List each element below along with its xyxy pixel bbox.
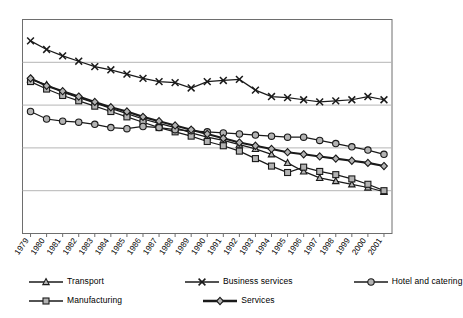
x-axis-label: 1994 <box>254 236 272 256</box>
x-axis-label: 1987 <box>141 236 159 256</box>
legend-row: TransportBusiness servicesHotel and cate… <box>0 272 409 291</box>
x-axis-label: 1999 <box>334 236 352 256</box>
legend-item-services[interactable]: Services <box>202 295 274 307</box>
x-axis-label: 2001 <box>366 236 384 256</box>
data-point <box>92 121 98 127</box>
legend-row: ManufacturingServices <box>0 291 409 310</box>
square-marker-icon <box>28 295 64 307</box>
legend-label: Hotel and catering <box>389 277 463 286</box>
data-point <box>368 278 374 284</box>
data-point <box>365 181 371 187</box>
data-point <box>124 125 130 131</box>
x-axis-label: 1979 <box>13 236 31 256</box>
data-point <box>285 170 291 176</box>
data-point <box>140 123 146 129</box>
data-point <box>301 164 307 170</box>
x-axis-label: 1982 <box>61 236 79 256</box>
data-point <box>269 163 275 169</box>
data-point <box>284 134 290 140</box>
data-point <box>252 132 258 138</box>
x-axis-label: 1996 <box>286 236 304 256</box>
cross-marker-icon <box>184 276 220 288</box>
legend-item-transport[interactable]: Transport <box>28 276 104 288</box>
data-point <box>333 172 339 178</box>
data-point <box>236 131 242 137</box>
data-point <box>108 124 114 130</box>
triangle-marker-icon <box>28 276 64 288</box>
data-point <box>204 138 210 144</box>
data-point <box>236 148 242 154</box>
legend-item-manufacturing[interactable]: Manufacturing <box>28 295 122 307</box>
plot-frame <box>23 20 393 234</box>
data-point <box>27 108 33 114</box>
legend-label: Business services <box>220 277 293 286</box>
circle-marker-icon <box>353 276 389 288</box>
data-point <box>333 140 339 146</box>
data-point <box>268 133 274 139</box>
x-axis-label: 1992 <box>222 236 240 256</box>
x-axis-label: 1980 <box>29 236 47 256</box>
x-axis-label: 1995 <box>270 236 288 256</box>
legend-item-business-services[interactable]: Business services <box>184 276 293 288</box>
data-point <box>59 118 65 124</box>
legend-label: Manufacturing <box>64 296 122 305</box>
data-point <box>43 116 49 122</box>
data-point <box>381 188 387 194</box>
x-axis-label: 1991 <box>206 236 224 256</box>
x-axis-label: 1986 <box>125 236 143 256</box>
data-point <box>349 176 355 182</box>
data-point <box>217 297 224 304</box>
diamond-marker-icon <box>202 295 238 307</box>
plot-area: 1979198019811982198319841985198619871988… <box>0 0 409 272</box>
x-axis-label: 1993 <box>238 236 256 256</box>
x-axis-label: 1997 <box>302 236 320 256</box>
legend-item-hotel-and-catering[interactable]: Hotel and catering <box>353 276 463 288</box>
x-axis-label: 2000 <box>350 236 368 256</box>
x-axis-label: 1985 <box>109 236 127 256</box>
data-point <box>43 298 49 304</box>
data-point <box>349 144 355 150</box>
x-axis-label: 1988 <box>157 236 175 256</box>
x-axis-label: 1984 <box>93 236 111 256</box>
x-axis-label: 1990 <box>190 236 208 256</box>
chart-legend: TransportBusiness servicesHotel and cate… <box>0 272 409 316</box>
data-point <box>76 119 82 125</box>
x-axis-label: 1981 <box>45 236 63 256</box>
x-axis-label: 1983 <box>77 236 95 256</box>
data-point <box>220 143 226 149</box>
data-point <box>252 156 258 162</box>
data-point <box>317 168 323 174</box>
legend-label: Services <box>238 296 274 305</box>
data-point <box>381 151 387 157</box>
x-axis-label: 1989 <box>174 236 192 256</box>
data-point <box>317 137 323 143</box>
legend-label: Transport <box>64 277 104 286</box>
data-point <box>365 147 371 153</box>
data-point <box>300 134 306 140</box>
x-axis-label: 1998 <box>318 236 336 256</box>
